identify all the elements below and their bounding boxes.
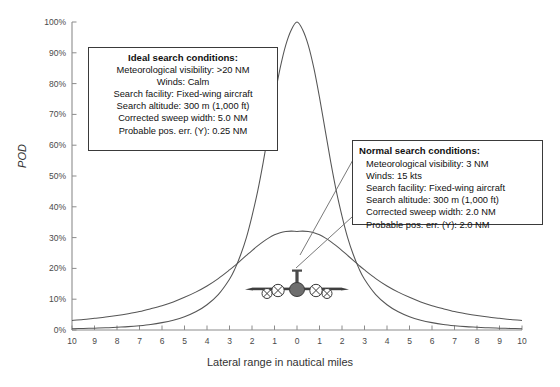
x-axis-tick-label: 10 xyxy=(508,336,536,346)
y-axis-tick-label: 100% xyxy=(20,17,66,27)
y-axis-ticks xyxy=(72,22,77,330)
y-axis-tick-label: 80% xyxy=(20,79,66,89)
y-axis-tick-label: 0% xyxy=(20,325,66,335)
annotation-box-normal: Normal search conditions: Meteorological… xyxy=(352,140,543,225)
y-axis-tick-label: 50% xyxy=(20,171,66,181)
chart-figure: POD Lateral range in nautical miles 1098… xyxy=(0,0,560,387)
annotation-ideal-line-2: Winds: Calm xyxy=(95,76,271,88)
annotation-ideal-line-1: Meteorological visibility: >20 NM xyxy=(95,64,271,76)
annotation-normal-line-3: Search facility: Fixed-wing aircraft xyxy=(359,182,536,194)
aircraft-front-view-icon xyxy=(245,270,349,299)
y-axis-tick-label: 10% xyxy=(20,294,66,304)
y-axis-tick-label: 30% xyxy=(20,233,66,243)
annotation-box-ideal: Ideal search conditions: Meteorological … xyxy=(88,47,278,151)
annotation-normal-line-5: Corrected sweep width: 2.0 NM xyxy=(359,206,536,218)
x-axis-title: Lateral range in nautical miles xyxy=(0,356,560,368)
annotation-normal-line-2: Winds: 15 kts xyxy=(359,170,536,182)
annotation-ideal-line-3: Search facility: Fixed-wing aircraft xyxy=(95,88,271,100)
y-axis-tick-label: 40% xyxy=(20,202,66,212)
annotation-normal-line-4: Search altitude: 300 m (1,000 ft) xyxy=(359,194,536,206)
y-axis-tick-label: 20% xyxy=(20,263,66,273)
annotation-ideal-line-5: Corrected sweep width: 5.0 NM xyxy=(95,112,271,124)
annotation-ideal-line-6: Probable pos. err. (Y): 0.25 NM xyxy=(95,125,271,137)
y-axis-tick-label: 70% xyxy=(20,109,66,119)
y-axis-tick-label: 90% xyxy=(20,48,66,58)
annotation-normal-line-6: Probable pos. err. (Y): 2.0 NM xyxy=(359,219,536,231)
annotation-ideal-heading: Ideal search conditions: xyxy=(95,52,271,64)
annotation-normal-line-1: Meteorological visibility: 3 NM xyxy=(359,158,536,170)
y-axis-tick-label: 60% xyxy=(20,140,66,150)
annotation-normal-heading: Normal search conditions: xyxy=(359,145,536,157)
annotation-ideal-line-4: Search altitude: 300 m (1,000 ft) xyxy=(95,100,271,112)
